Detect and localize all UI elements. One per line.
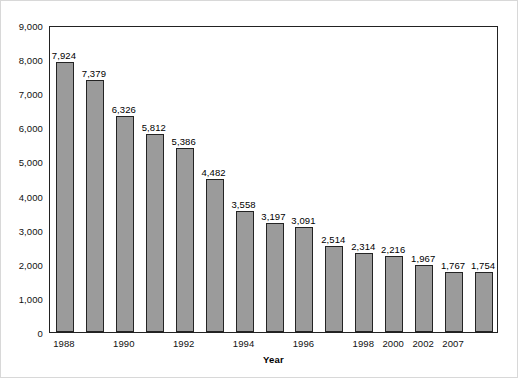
x-axis-tick-label: 2000 [382,338,404,349]
y-axis-tick-label: 4,000 [19,191,43,202]
bar-value-label: 6,326 [104,104,144,115]
bar-rect [325,246,343,332]
bar-value-label: 3,558 [224,199,264,210]
x-axis-tick-label: 1988 [53,338,75,349]
bar-value-label: 5,812 [134,122,174,133]
bar-rect [176,148,194,332]
x-axis-tick-label: 1996 [293,338,315,349]
bar-value-label: 4,482 [194,167,234,178]
bar[interactable] [236,25,254,332]
bar[interactable] [295,25,313,332]
bar[interactable] [176,25,194,332]
bar-rect [475,272,493,332]
bar[interactable] [415,25,433,332]
bar[interactable] [325,25,343,332]
x-axis-tick-label: 2002 [412,338,434,349]
bar-rect [445,272,463,332]
x-axis-tick-label: 1992 [173,338,195,349]
bar-rect [266,223,284,332]
bar[interactable] [355,25,373,332]
bar-value-label: 3,091 [283,215,323,226]
x-axis-tick-label: 2007 [442,338,464,349]
y-axis-tick-label: 6,000 [19,123,43,134]
x-axis-title: Year [263,354,284,365]
bar[interactable] [266,25,284,332]
bar-value-label: 1,754 [463,260,503,271]
x-axis-tick-label: 1994 [233,338,255,349]
bar[interactable] [206,25,224,332]
bar-rect [86,80,104,332]
y-axis-tick-label: 2,000 [19,259,43,270]
x-axis-tick-label: 1998 [353,338,375,349]
bar-rect [146,134,164,332]
y-axis-tick-label: 5,000 [19,157,43,168]
bar-rect [206,179,224,332]
bar-rect [116,116,134,332]
y-axis-tick-label: 7,000 [19,89,43,100]
bar[interactable] [475,25,493,332]
bar-rect [355,253,373,332]
bar[interactable] [56,25,74,332]
bar-rect [385,256,403,332]
y-axis-tick-label: 8,000 [19,55,43,66]
y-axis-tick-label: 1,000 [19,293,43,304]
bar[interactable] [116,25,134,332]
y-axis-tick-label: 3,000 [19,225,43,236]
bar-rect [56,62,74,332]
bar-rect [236,211,254,332]
bar-rect [295,227,313,332]
bar-rect [415,265,433,332]
plot-area [49,26,498,333]
x-axis-tick-label: 1990 [113,338,135,349]
bar-value-label: 7,379 [74,68,114,79]
bar-value-label: 5,386 [164,136,204,147]
y-axis-tick-label: 0 [38,328,43,339]
y-axis-tick-label: 9,000 [19,21,43,32]
bar[interactable] [445,25,463,332]
bar-chart-figure: 01,0002,0003,0004,0005,0006,0007,0008,00… [0,0,518,378]
bar-value-label: 7,924 [44,50,84,61]
y-axis-labels: 01,0002,0003,0004,0005,0006,0007,0008,00… [1,1,43,378]
bar[interactable] [146,25,164,332]
bar[interactable] [385,25,403,332]
